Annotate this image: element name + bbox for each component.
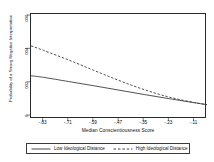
y-tick-label: .004 [24, 48, 29, 62]
legend-swatch-solid-line-icon [31, 146, 51, 152]
legend-swatch-dashed-line-icon [113, 146, 133, 152]
x-axis-tick-labels: -.83 -.71 -.59 -.47 -.35 -.23 -.11 [0, 120, 214, 128]
x-tick-label: -.59 [81, 120, 105, 126]
x-tick-label: -.11 [182, 120, 206, 126]
legend-label: High Ideological Distance [136, 146, 188, 152]
series-layer [31, 46, 207, 105]
x-tick-label: -.23 [156, 120, 180, 126]
y-axis-tick-labels: .006 .004 .002 0 [10, 0, 26, 162]
legend-label: Low Ideological Distance [54, 146, 105, 152]
series-line-2 [31, 46, 207, 105]
x-tick-label: -.83 [31, 120, 55, 126]
plot-area [30, 13, 206, 118]
legend-item-low-ideological-distance: Low Ideological Distance [31, 144, 105, 153]
x-tick-label: -.71 [56, 120, 80, 126]
legend-item-high-ideological-distance: High Ideological Distance [113, 144, 188, 153]
x-axis-title: Median Conscientiousness Score [30, 128, 206, 134]
x-tick-label: -.35 [131, 120, 155, 126]
y-tick-label: .006 [24, 15, 29, 29]
x-tick-label: -.47 [106, 120, 130, 126]
chart-legend: Low Ideological Distance High Ideologica… [26, 143, 190, 154]
y-tick-label: .002 [24, 82, 29, 96]
chart-figure: Probability of a Strong Negative Interpr… [0, 0, 214, 162]
plot-curves [31, 14, 207, 119]
